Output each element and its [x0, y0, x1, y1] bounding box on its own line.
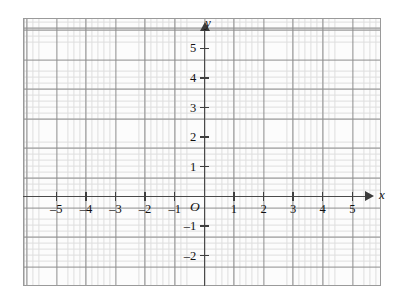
x-tick-mark — [322, 192, 323, 201]
x-tick-mark — [352, 192, 353, 201]
x-tick-label: –4 — [80, 203, 93, 216]
y-tick-mark — [200, 225, 209, 226]
y-tick-label: 2 — [170, 131, 196, 144]
x-tick-mark — [56, 192, 57, 201]
x-tick-mark — [292, 192, 293, 201]
x-tick-mark — [174, 192, 175, 201]
x-tick-label: –5 — [50, 203, 63, 216]
x-axis-arrow-icon — [365, 191, 374, 201]
x-tick-label: 3 — [290, 203, 296, 216]
y-tick-label: 3 — [170, 101, 196, 114]
coordinate-grid-figure: x y O –5–4–3–2–112345 54321–1–2 — [0, 0, 404, 303]
y-tick-label: 4 — [170, 72, 196, 85]
y-tick-mark — [200, 136, 209, 137]
y-tick-mark — [200, 107, 209, 108]
x-tick-mark — [144, 192, 145, 201]
x-axis-label: x — [379, 188, 385, 201]
y-tick-label: –1 — [170, 220, 196, 233]
x-axis-line — [23, 196, 368, 197]
grid-plate — [23, 18, 381, 286]
x-tick-label: 1 — [231, 203, 237, 216]
y-axis-line — [204, 30, 205, 286]
y-tick-label: 5 — [170, 42, 196, 55]
y-tick-label: –2 — [170, 249, 196, 262]
x-tick-label: –3 — [109, 203, 122, 216]
y-tick-label: 1 — [170, 160, 196, 173]
x-tick-mark — [263, 192, 264, 201]
x-tick-label: 4 — [320, 203, 326, 216]
y-axis-label: y — [205, 16, 211, 29]
x-tick-label: 5 — [349, 203, 355, 216]
y-tick-mark — [200, 166, 209, 167]
y-tick-mark — [200, 255, 209, 256]
x-tick-mark — [233, 192, 234, 201]
origin-label: O — [190, 200, 200, 214]
y-tick-mark — [200, 48, 209, 49]
x-tick-label: –2 — [139, 203, 152, 216]
x-tick-mark — [115, 192, 116, 201]
y-tick-mark — [200, 77, 209, 78]
x-tick-label: 2 — [260, 203, 266, 216]
x-tick-mark — [85, 192, 86, 201]
x-tick-label: –1 — [168, 203, 181, 216]
